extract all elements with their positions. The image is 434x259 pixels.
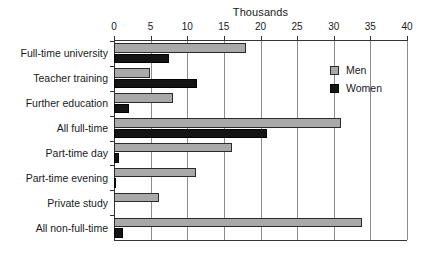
bar-women	[114, 129, 267, 139]
bar-women	[114, 153, 119, 163]
legend-swatch-men-icon	[330, 66, 339, 75]
x-axis-tick-label: 30	[328, 21, 339, 32]
legend-label-women: Women	[346, 82, 382, 94]
category-label: Full-time university	[0, 47, 108, 59]
bar-women	[114, 228, 123, 238]
legend: Men Women	[330, 62, 382, 98]
x-axis-tick-label: 15	[218, 21, 229, 32]
bar-men	[114, 118, 341, 128]
bar-men	[114, 68, 150, 78]
legend-entry-men: Men	[330, 62, 382, 78]
bar-men	[114, 218, 362, 228]
x-axis-tick-label: 40	[401, 21, 412, 32]
category-label: Part-time evening	[0, 172, 108, 184]
x-axis-bottom-line	[114, 240, 407, 241]
bar-women	[114, 178, 116, 188]
chart-title: Thousands	[114, 6, 407, 18]
category-label: Part-time day	[0, 147, 108, 159]
x-axis-tick-label: 20	[255, 21, 266, 32]
category-label: All non-full-time	[0, 222, 108, 234]
bar-men	[114, 193, 159, 203]
category-label: Further education	[0, 97, 108, 109]
legend-label-men: Men	[346, 64, 366, 76]
bar-men	[114, 43, 246, 53]
gridline	[407, 41, 408, 240]
bar-men	[114, 168, 196, 178]
legend-swatch-women-icon	[330, 84, 339, 93]
category-label: All full-time	[0, 122, 108, 134]
category-label: Private study	[0, 197, 108, 209]
bar-women	[114, 104, 129, 114]
x-axis-tick-label: 5	[148, 21, 154, 32]
legend-entry-women: Women	[330, 80, 382, 96]
category-label: Teacher training	[0, 72, 108, 84]
bar-women	[114, 54, 169, 64]
bar-men	[114, 143, 232, 153]
x-axis-tick-label: 10	[182, 21, 193, 32]
x-axis-tick-label: 0	[111, 21, 117, 32]
x-axis-tick-label: 25	[292, 21, 303, 32]
bar-chart: Thousands 0510152025303540 Full-time uni…	[0, 0, 434, 259]
bar-women	[114, 79, 197, 89]
x-axis-tick-label: 35	[365, 21, 376, 32]
bar-men	[114, 93, 173, 103]
